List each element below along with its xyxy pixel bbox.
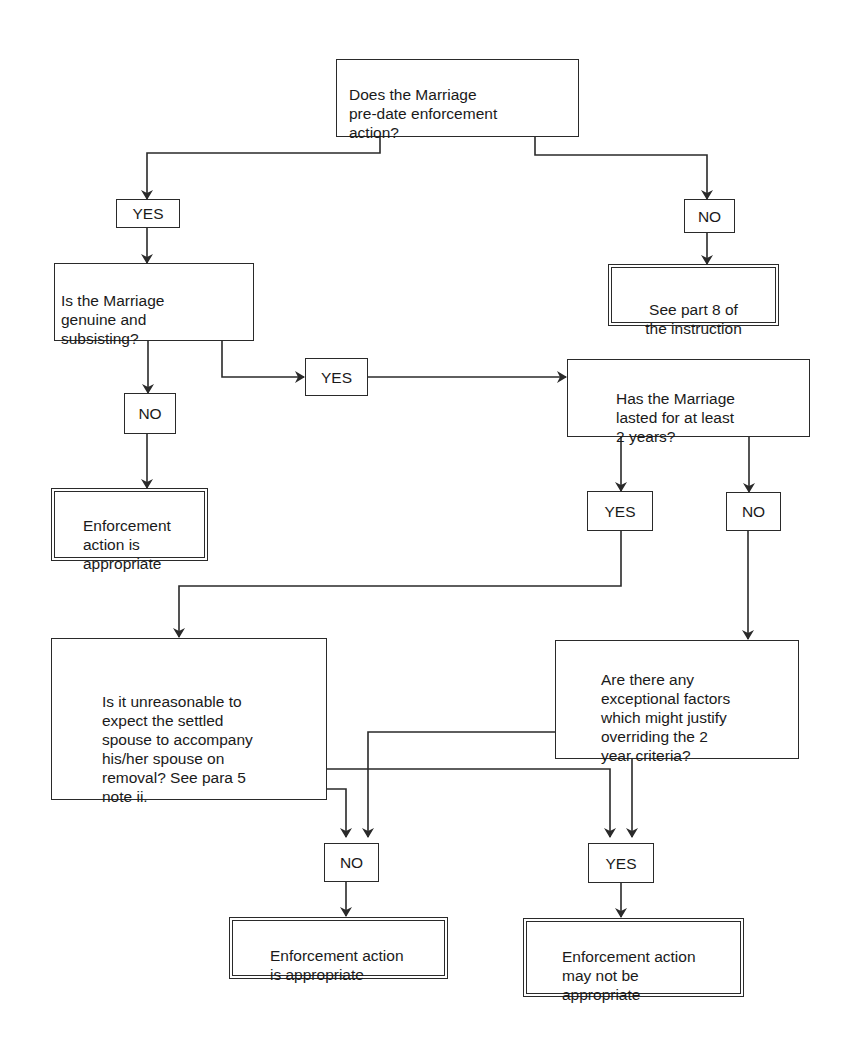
terminal-enforcement-appropriate-2: Enforcement action is appropriate [229,917,448,979]
yes-label-predates: YES [116,199,180,228]
decision-marriage-genuine: Is the Marriage genuine and subsisting? [54,263,254,341]
label-text: NO [742,502,765,521]
decision-text: Has the Marriage lasted for at least 2 y… [616,389,809,446]
decision-text: Does the Marriage pre-date enforcement a… [349,85,570,142]
yes-label-two-years: YES [587,491,653,531]
yes-label-genuine: YES [305,358,368,396]
decision-marriage-two-years: Has the Marriage lasted for at least 2 y… [567,359,810,437]
terminal-text: Enforcement action is appropriate [83,516,204,573]
label-text: NO [340,853,363,872]
no-label-final: NO [324,843,379,882]
label-text: YES [321,368,352,387]
no-label-genuine: NO [124,393,176,434]
decision-unreasonable-to-accompany: Is it unreasonable to expect the settled… [51,638,327,800]
decision-text: Is it unreasonable to expect the settled… [102,692,326,806]
label-text: NO [698,207,721,226]
no-label-two-years: NO [726,492,781,531]
decision-text: Are there any exceptional factors which … [601,670,798,765]
terminal-text: Enforcement action may not be appropriat… [562,947,740,1004]
terminal-text: See part 8 of the instruction [612,300,775,338]
terminal-enforcement-may-not-be-appropriate: Enforcement action may not be appropriat… [523,918,744,997]
label-text: YES [605,854,636,873]
yes-label-final: YES [588,843,654,883]
terminal-see-part-8: See part 8 of the instruction [608,264,779,326]
decision-marriage-predates-enforcement: Does the Marriage pre-date enforcement a… [336,59,579,137]
decision-exceptional-factors: Are there any exceptional factors which … [555,640,799,759]
flowchart-canvas: Does the Marriage pre-date enforcement a… [0,0,842,1045]
terminal-enforcement-appropriate-1: Enforcement action is appropriate [51,488,208,561]
no-label-predates: NO [684,199,735,233]
label-text: YES [132,204,163,223]
label-text: YES [604,502,635,521]
label-text: NO [138,404,161,423]
decision-text: Is the Marriage genuine and subsisting? [61,291,253,348]
terminal-text: Enforcement action is appropriate [270,946,444,984]
